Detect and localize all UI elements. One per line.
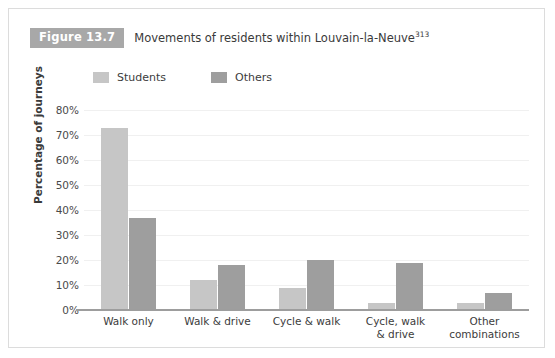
y-axis-tick-label: 50% bbox=[45, 179, 79, 191]
bar-others[interactable] bbox=[485, 293, 512, 311]
bar-group bbox=[84, 110, 173, 310]
x-axis-tick-label-line: combinations bbox=[428, 328, 541, 341]
legend-item-label: Students bbox=[117, 71, 166, 84]
y-axis-tick-label: 70% bbox=[45, 129, 79, 141]
bar-group bbox=[440, 110, 529, 310]
bar-others[interactable] bbox=[307, 260, 334, 310]
bar-students[interactable] bbox=[190, 280, 217, 310]
figure-caption: Figure 13.7 Movements of residents withi… bbox=[30, 28, 429, 48]
legend-item[interactable]: Others bbox=[211, 71, 272, 84]
y-axis-tick-label: 20% bbox=[45, 254, 79, 266]
bar-others[interactable] bbox=[218, 265, 245, 310]
x-axis-tick-label-line: Other bbox=[428, 315, 541, 328]
x-axis-tick-label: Othercombinations bbox=[428, 315, 541, 341]
plot-area bbox=[84, 110, 529, 310]
bar-group bbox=[173, 110, 262, 310]
y-axis-tick-label: 30% bbox=[45, 229, 79, 241]
y-axis-tick-label: 80% bbox=[45, 104, 79, 116]
bar-students[interactable] bbox=[279, 288, 306, 311]
chart-legend: StudentsOthers bbox=[93, 71, 317, 84]
bar-others[interactable] bbox=[129, 218, 156, 311]
x-axis-line bbox=[84, 309, 529, 311]
bar-group bbox=[262, 110, 351, 310]
y-axis-tick-label: 40% bbox=[45, 204, 79, 216]
bar-students[interactable] bbox=[101, 128, 128, 311]
bar-others[interactable] bbox=[396, 263, 423, 311]
legend-swatch-icon bbox=[211, 72, 227, 83]
y-axis-tick-label: 10% bbox=[45, 279, 79, 291]
caption-footnote-marker: 313 bbox=[415, 30, 429, 39]
y-axis-ticks: 0%10%20%30%40%50%60%70%80% bbox=[39, 9, 79, 358]
bar-group bbox=[351, 110, 440, 310]
legend-swatch-icon bbox=[93, 72, 109, 83]
legend-item[interactable]: Students bbox=[93, 71, 166, 84]
figure-caption-text: Movements of residents within Louvain-la… bbox=[134, 30, 429, 45]
caption-main-text: Movements of residents within Louvain-la… bbox=[134, 31, 415, 45]
figure-card: Figure 13.7 Movements of residents withi… bbox=[8, 8, 545, 348]
y-axis-zero-tick bbox=[76, 309, 84, 311]
y-axis-tick-label: 60% bbox=[45, 154, 79, 166]
legend-item-label: Others bbox=[235, 71, 272, 84]
